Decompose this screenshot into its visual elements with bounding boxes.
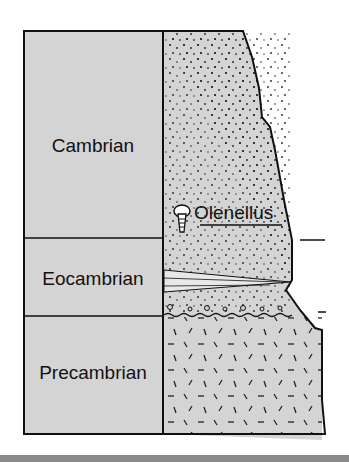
unit-label-cambrian: Cambrian	[24, 135, 162, 157]
unit-label-precambrian: Precambrian	[24, 362, 162, 384]
fossil-label: Olenellus	[194, 202, 273, 224]
unit-label-eocambrian: Eocambrian	[24, 268, 162, 290]
bottom-bar	[0, 455, 349, 462]
strat-column-graphic	[0, 0, 349, 462]
